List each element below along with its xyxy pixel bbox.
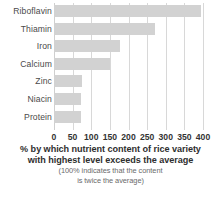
x-tick-400: 400 — [196, 132, 210, 143]
bar-zinc — [54, 75, 82, 87]
bars-area — [54, 0, 203, 133]
bar-row — [54, 75, 203, 87]
category-label-riboflavin: Riboflavin — [0, 6, 52, 16]
caption-line-2: with highest level exceeds the average — [0, 155, 221, 166]
bar-riboflavin — [54, 5, 201, 17]
gridline-400 — [203, 3, 204, 130]
x-tick-0: 0 — [52, 132, 57, 143]
category-label-calcium: Calcium — [0, 59, 52, 69]
chart-caption: % by which nutrient content of rice vari… — [0, 144, 221, 185]
x-axis-tick-labels: 050100150200250300350400 — [54, 132, 203, 144]
bar-thiamin — [54, 23, 155, 35]
bar-row — [54, 58, 203, 70]
category-axis-labels: Riboflavin Thiamin Iron Calcium Zinc Nia… — [0, 0, 52, 133]
bar-protein — [54, 111, 81, 123]
category-label-thiamin: Thiamin — [0, 24, 52, 34]
bar-row — [54, 5, 203, 17]
caption-note-1: (100% indicates that the content — [0, 166, 221, 175]
x-tick-100: 100 — [84, 132, 98, 143]
bar-niacin — [54, 93, 81, 105]
plot-region: Riboflavin Thiamin Iron Calcium Zinc Nia… — [0, 0, 221, 133]
bar-row — [54, 23, 203, 35]
x-tick-150: 150 — [103, 132, 117, 143]
bar-row — [54, 93, 203, 105]
x-tick-200: 200 — [121, 132, 135, 143]
nutrient-content-bar-chart: Riboflavin Thiamin Iron Calcium Zinc Nia… — [0, 0, 221, 201]
bar-row — [54, 111, 203, 123]
x-tick-250: 250 — [140, 132, 154, 143]
bar-iron — [54, 40, 120, 52]
bar-calcium — [54, 58, 110, 70]
caption-note-2: is twice the average) — [0, 176, 221, 185]
bar-row — [54, 40, 203, 52]
category-label-niacin: Niacin — [0, 94, 52, 104]
caption-line-1: % by which nutrient content of rice vari… — [0, 144, 221, 155]
x-tick-350: 350 — [177, 132, 191, 143]
category-label-iron: Iron — [0, 41, 52, 51]
category-label-protein: Protein — [0, 112, 52, 122]
category-label-zinc: Zinc — [0, 76, 52, 86]
x-tick-50: 50 — [68, 132, 78, 143]
x-tick-300: 300 — [159, 132, 173, 143]
